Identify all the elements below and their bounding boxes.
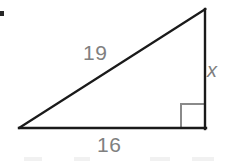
geometry-figure: 19 x 16 — [0, 0, 232, 164]
side-label-vertical: x — [207, 60, 217, 80]
right-angle-square-icon — [181, 104, 205, 128]
triangle-side-hypotenuse — [19, 9, 206, 128]
side-label-hypotenuse: 19 — [83, 42, 107, 63]
side-label-base: 16 — [97, 134, 121, 155]
scan-edge-artifact — [0, 11, 4, 16]
